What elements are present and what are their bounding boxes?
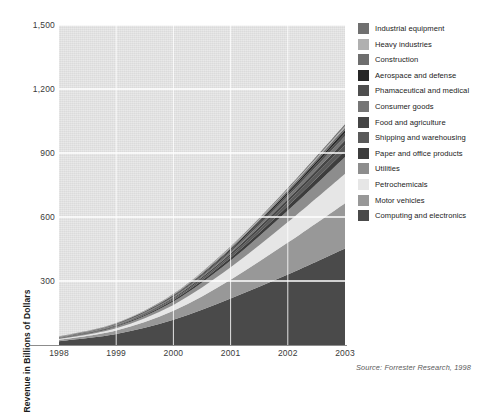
x-axis-tick-label: 2002	[278, 348, 298, 358]
x-axis-tick-label: 2000	[164, 348, 184, 358]
legend-label: Shipping and warehousing	[375, 133, 466, 142]
legend-item[interactable]: Consumer goods	[358, 101, 478, 112]
legend-label: Paper and office products	[375, 149, 463, 158]
legend-item[interactable]: Aerospace and defense	[358, 70, 478, 81]
area-series-group: Computing and electronicsMotor vehiclesP…	[59, 25, 345, 345]
x-axis-tick-label: 2001	[221, 348, 241, 358]
legend-label: Computing and electronics	[375, 211, 466, 220]
legend-item[interactable]: Heavy industries	[358, 39, 478, 50]
legend-label: Heavy industries	[375, 40, 432, 49]
legend-swatch	[358, 39, 369, 50]
x-axis-tick-label: 2003	[335, 348, 355, 358]
legend-item[interactable]: Food and agriculture	[358, 117, 478, 128]
legend-item[interactable]: Construction	[358, 54, 478, 65]
legend-item[interactable]: Utilities	[358, 163, 478, 174]
legend-label: Aerospace and defense	[375, 71, 456, 80]
y-axis-tick-label: 1,200	[3, 84, 55, 94]
legend-item[interactable]: Phamaceutical and medical	[358, 85, 478, 96]
legend-swatch	[358, 195, 369, 206]
legend-swatch	[358, 163, 369, 174]
legend-item[interactable]: Computing and electronics	[358, 210, 478, 221]
legend-swatch	[358, 23, 369, 34]
legend-swatch	[358, 85, 369, 96]
legend-swatch	[358, 70, 369, 81]
legend-label: Motor vehicles	[375, 196, 425, 205]
plot-area: Computing and electronicsMotor vehiclesP…	[59, 25, 345, 345]
x-axis-tick-label: 1999	[106, 348, 126, 358]
legend-label: Petrochemicals	[375, 180, 428, 189]
x-axis-tick-label: 1998	[49, 348, 69, 358]
legend-label: Food and agriculture	[375, 118, 446, 127]
legend-swatch	[358, 117, 369, 128]
x-axis-ticks: 199819992000200120022003	[59, 348, 345, 364]
legend-item[interactable]: Industrial equipment	[358, 23, 478, 34]
legend-item[interactable]: Shipping and warehousing	[358, 132, 478, 143]
legend-item[interactable]: Motor vehicles	[358, 195, 478, 206]
legend-swatch	[358, 132, 369, 143]
legend-swatch	[358, 101, 369, 112]
y-axis-tick-label: 1,500	[3, 20, 55, 30]
legend-swatch	[358, 179, 369, 190]
legend-label: Phamaceutical and medical	[375, 86, 469, 95]
legend-item[interactable]: Petrochemicals	[358, 179, 478, 190]
legend-label: Construction	[375, 55, 418, 64]
legend-swatch	[358, 148, 369, 159]
legend-label: Industrial equipment	[375, 24, 444, 33]
y-axis-title-box: Revenue in Billions of Dollars	[10, 150, 26, 320]
source-note: Source: Forrester Research, 1998	[356, 363, 471, 372]
y-axis-title: Revenue in Billions of Dollars	[22, 266, 32, 416]
legend-swatch	[358, 210, 369, 221]
x-axis-line	[30, 345, 347, 346]
legend-label: Utilities	[375, 164, 400, 173]
legend-item[interactable]: Paper and office products	[358, 148, 478, 159]
legend-swatch	[358, 54, 369, 65]
legend-label: Consumer goods	[375, 102, 434, 111]
legend: Industrial equipmentHeavy industriesCons…	[358, 23, 478, 226]
